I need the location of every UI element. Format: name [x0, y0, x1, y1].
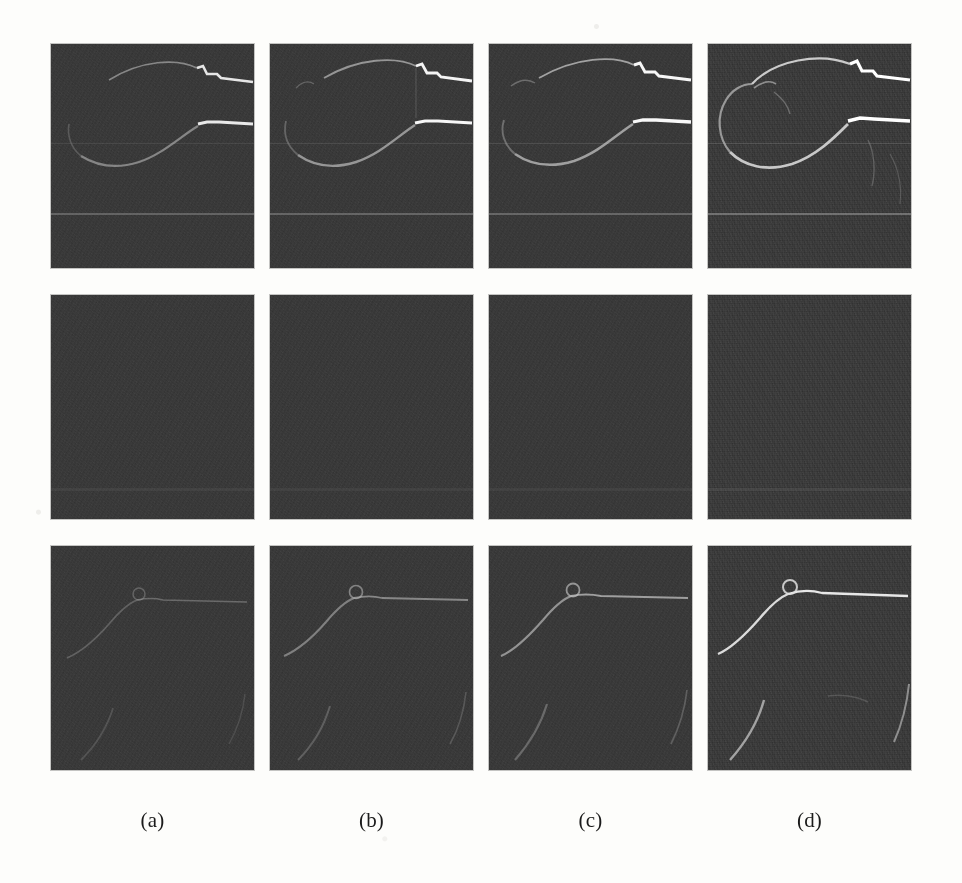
image-panel[interactable]: [51, 44, 254, 268]
horizontal-band: [708, 213, 911, 215]
speckle-noise: [51, 44, 254, 268]
horizontal-band: [51, 213, 254, 215]
feature-trace: [270, 546, 473, 770]
feature-trace: [489, 44, 692, 268]
column-label-c: (c): [489, 806, 692, 846]
horizontal-band: [270, 488, 473, 491]
feature-trace: [489, 546, 692, 770]
image-panel[interactable]: [489, 44, 692, 268]
speckle-noise: [270, 546, 473, 770]
speckle-noise: [708, 44, 911, 268]
image-panel[interactable]: [489, 546, 692, 770]
column-label-a: (a): [51, 806, 254, 846]
image-panel[interactable]: [708, 44, 911, 268]
feature-trace: [708, 44, 911, 268]
image-panel[interactable]: [489, 295, 692, 519]
image-panel[interactable]: [270, 295, 473, 519]
speckle-noise: [708, 295, 911, 519]
image-panel[interactable]: [51, 546, 254, 770]
image-panel[interactable]: [270, 546, 473, 770]
horizontal-band: [51, 143, 254, 144]
figure-container: (a) (b) (c) (d): [0, 0, 962, 883]
speckle-noise: [270, 295, 473, 519]
horizontal-band: [489, 143, 692, 144]
image-panel[interactable]: [708, 295, 911, 519]
speckle-noise: [489, 295, 692, 519]
horizontal-band: [489, 488, 692, 491]
feature-trace: [270, 44, 473, 268]
speckle-noise: [270, 44, 473, 268]
horizontal-band: [708, 488, 911, 491]
feature-trace: [51, 44, 254, 268]
column-label-b: (b): [270, 806, 473, 846]
speckle-noise: [708, 546, 911, 770]
image-panel[interactable]: [270, 44, 473, 268]
panel-grid: [51, 44, 912, 770]
speckle-noise: [51, 295, 254, 519]
column-label-row: (a) (b) (c) (d): [51, 806, 912, 846]
speckle-noise: [489, 546, 692, 770]
feature-trace: [708, 546, 911, 770]
horizontal-band: [708, 143, 911, 144]
horizontal-band: [51, 488, 254, 491]
speckle-noise: [489, 44, 692, 268]
image-panel[interactable]: [708, 546, 911, 770]
feature-trace: [51, 546, 254, 770]
column-label-d: (d): [708, 806, 911, 846]
image-panel[interactable]: [51, 295, 254, 519]
horizontal-band: [270, 213, 473, 215]
horizontal-band: [489, 213, 692, 215]
speckle-noise: [51, 546, 254, 770]
horizontal-band: [270, 143, 473, 144]
